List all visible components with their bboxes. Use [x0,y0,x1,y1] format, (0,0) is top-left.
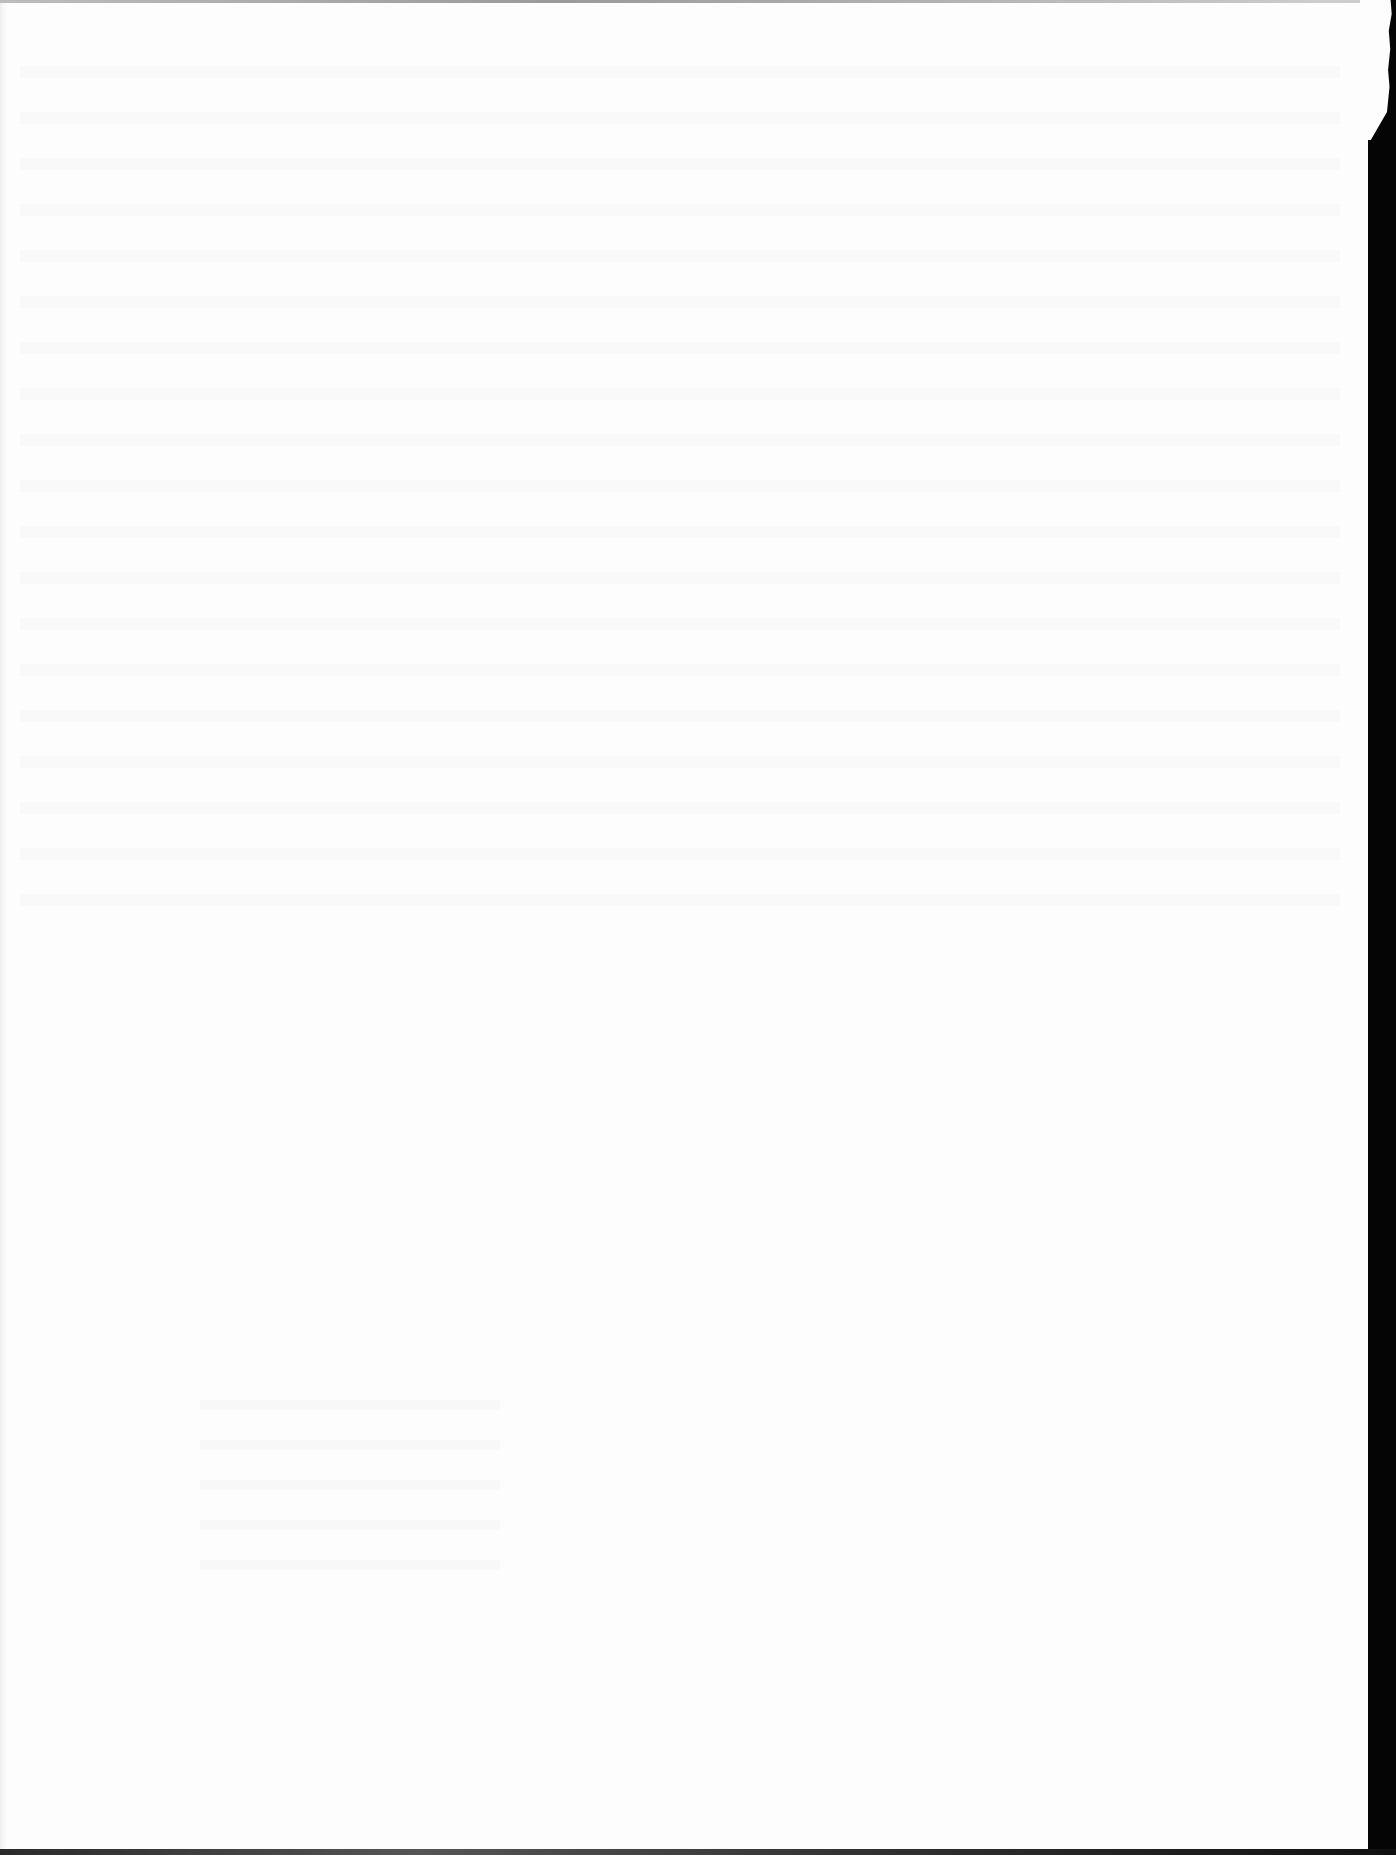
scan-bottom-border [0,1849,1396,1855]
scan-right-border [1368,0,1396,1855]
bleed-through-text-lower [200,1400,500,1600]
bleed-through-text-upper [20,40,1340,940]
scan-top-edge [0,0,1390,3]
blank-scanned-page [0,0,1368,1850]
